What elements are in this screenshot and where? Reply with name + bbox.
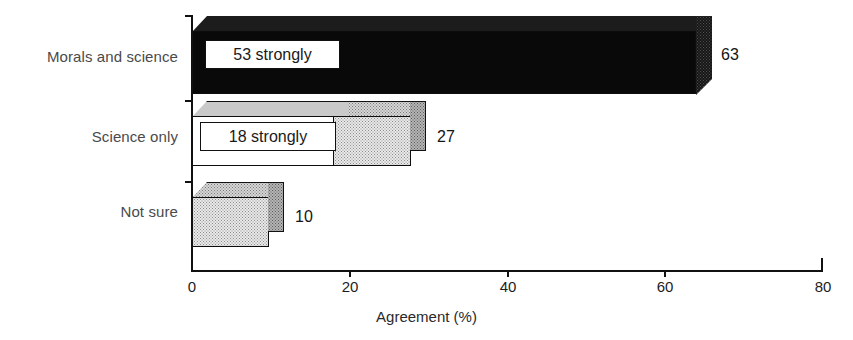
bar-front-face-remainder [333,116,411,166]
category-label-morals-and-science: Morals and science [47,48,178,65]
y-axis-tick-2 [185,181,192,183]
x-axis-tick-label-20: 20 [330,278,370,295]
chart-container: Morals and science Science only Not sure… [0,0,853,340]
x-axis-tick-label-60: 60 [645,278,685,295]
x-axis-tick-label-0: 0 [172,278,212,295]
x-axis-title: Agreement (%) [0,308,853,325]
y-axis-tick-1 [185,100,192,102]
x-axis-tick-60 [664,270,666,277]
bar-value-label-not-sure: 10 [295,208,313,226]
x-axis-tick-20 [349,270,351,277]
x-axis-tick-40 [507,270,509,277]
x-axis-tick-label-80: 80 [803,278,843,295]
bar-front-face [192,197,269,247]
y-axis-tick-0 [185,15,192,17]
y-axis-line [191,15,193,272]
bar-top-face [192,16,696,32]
x-axis-end-cap [821,258,823,272]
bar-inner-label-science-only: 18 strongly [200,122,336,151]
bar-end-cap [268,182,284,232]
bar-end-cap-bevel [696,79,712,95]
bar-inner-label-morals: 53 strongly [205,40,340,69]
x-axis-tick-label-40: 40 [488,278,528,295]
bar-top-face-left [192,101,348,117]
bar-value-label-morals: 63 [721,46,739,64]
bar-end-cap [410,101,426,151]
bar-value-label-science-only: 27 [437,128,455,146]
bar-end-cap [696,16,712,79]
category-label-science-only: Science only [92,128,178,145]
x-axis-tick-0 [191,264,193,271]
category-label-not-sure: Not sure [121,203,179,220]
